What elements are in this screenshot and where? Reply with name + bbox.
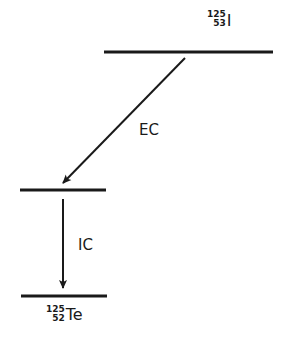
parent-nuclide-scripts: 125 53 bbox=[207, 10, 226, 28]
daughter-nuclide-label: 125 52 Te bbox=[46, 305, 83, 324]
parent-atomic-number: 53 bbox=[213, 18, 226, 28]
ec-label: EC bbox=[139, 121, 159, 139]
daughter-atomic-number: 52 bbox=[52, 313, 65, 323]
ic-label: IC bbox=[78, 236, 93, 254]
decay-scheme-canvas: EC IC bbox=[0, 0, 289, 342]
daughter-element-symbol: Te bbox=[66, 306, 83, 324]
parent-element-symbol: I bbox=[227, 12, 232, 30]
parent-nuclide-label: 125 53 I bbox=[207, 10, 232, 30]
daughter-nuclide-scripts: 125 52 bbox=[46, 305, 65, 323]
ec-transition-arrow bbox=[63, 58, 185, 183]
